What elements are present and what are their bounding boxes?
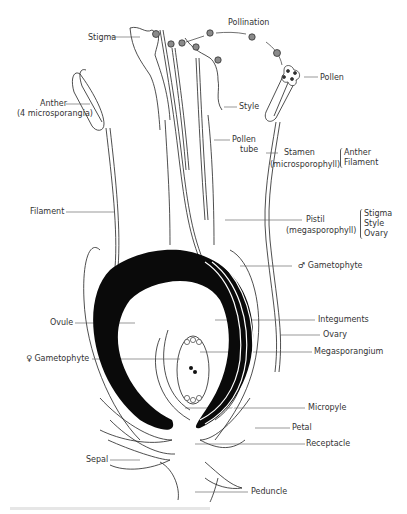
label-pollination: Pollination	[228, 18, 269, 28]
pollen-grains	[153, 30, 281, 63]
anther-right	[265, 74, 296, 372]
label-micropyle: Micropyle	[308, 403, 347, 413]
pistil-parts: Stigma Style Ovary	[360, 209, 392, 239]
label-female-gametophyte: ♀ Gametophyte	[26, 354, 89, 364]
label-stamen-sub: (microsporophyll)	[270, 160, 340, 170]
sepal-left	[108, 440, 170, 469]
flower-diagram: Pollination Stigma Pollen Anther (4 micr…	[0, 0, 407, 514]
label-anther: Anther	[40, 99, 67, 109]
figure-caption-faded	[10, 507, 210, 510]
label-anther-sub: (4 microsporangia)	[17, 109, 93, 119]
label-stamen: Stamen	[284, 148, 315, 158]
sepal-right	[205, 462, 242, 489]
label-stigma: Stigma	[88, 33, 116, 43]
embryo-sac	[177, 336, 209, 404]
label-receptacle: Receptacle	[306, 439, 350, 449]
label-pollen-tube-2: tube	[240, 145, 258, 155]
stamen-part-anther: Anther	[344, 148, 378, 158]
label-peduncle: Peduncle	[251, 487, 287, 497]
label-ovule: Ovule	[50, 318, 73, 328]
pistil-part-stigma: Stigma	[364, 209, 392, 219]
label-pollen-tube-1: Pollen	[232, 135, 256, 145]
pollen-tetrad	[282, 66, 300, 86]
label-pistil: Pistil	[306, 215, 325, 225]
label-sepal: Sepal	[86, 455, 108, 465]
stamen-parts: Anther Filament	[340, 148, 378, 168]
anther-left	[72, 70, 119, 268]
label-integuments: Integuments	[318, 315, 369, 325]
label-pollen: Pollen	[320, 73, 344, 83]
label-petal: Petal	[292, 423, 312, 433]
pistil-part-style: Style	[364, 219, 392, 229]
stigma-shape	[130, 27, 170, 120]
label-pistil-sub: (megasporophyll)	[286, 226, 356, 236]
stamen-part-filament: Filament	[344, 158, 378, 168]
label-filament: Filament	[30, 207, 64, 217]
pistil-part-ovary: Ovary	[364, 229, 392, 239]
diagram-drawing	[0, 0, 407, 514]
label-ovary: Ovary	[323, 330, 347, 340]
label-style: Style	[239, 102, 259, 112]
label-megasporangium: Megasporangium	[314, 347, 383, 357]
label-male-gametophyte: ♂ Gametophyte	[298, 261, 363, 271]
